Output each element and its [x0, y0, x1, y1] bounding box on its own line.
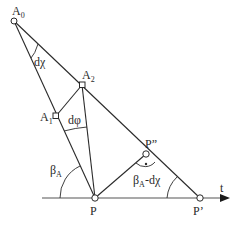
label-dchi: dχ: [34, 55, 46, 69]
diagram-canvas: A0 A2 A1 P P” P’ t dχ dφ βA βA-dχ: [0, 0, 241, 225]
point-P-prime: [197, 195, 203, 201]
label-dphi: dφ: [68, 113, 81, 127]
label-betaA-minus-dchi: βA-dχ: [133, 173, 161, 189]
betaA-arc: [60, 166, 80, 198]
axis-arrow-icon: [220, 194, 230, 202]
point-P-double-prime: [143, 151, 149, 157]
point-P: [92, 195, 98, 201]
label-P: P: [90, 204, 97, 218]
right-angle-dot: [145, 163, 147, 165]
label-t-axis: t: [220, 181, 224, 195]
label-A1: A1: [40, 110, 53, 126]
label-A2: A2: [82, 68, 95, 84]
label-P-double-prime: P”: [145, 137, 157, 151]
geometry-diagram: A0 A2 A1 P P” P’ t dχ dφ βA βA-dχ: [0, 0, 241, 225]
dphi-arc: [64, 127, 87, 131]
label-betaA: βA: [50, 163, 62, 179]
point-A2: [80, 82, 86, 88]
betaA-dchi-arc: [167, 177, 177, 198]
point-A1: [53, 113, 59, 119]
label-P-prime: P’: [193, 204, 204, 218]
label-A0: A0: [12, 4, 25, 20]
line-A1-A2: [56, 85, 82, 116]
line-A2-P: [82, 85, 95, 198]
point-A0: [11, 18, 17, 24]
